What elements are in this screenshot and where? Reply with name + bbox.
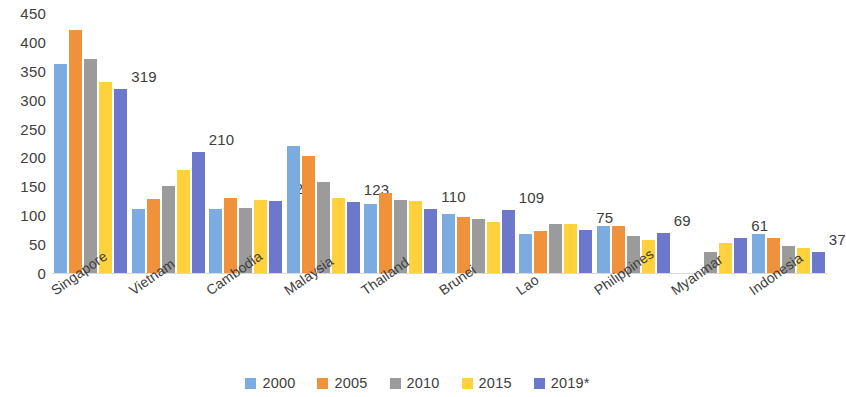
legend-label: 2015 xyxy=(479,376,512,391)
bar-group xyxy=(54,13,127,273)
legend-item[interactable]: 2019* xyxy=(534,376,590,391)
bar-slot xyxy=(719,13,732,273)
legend-item[interactable]: 2010 xyxy=(390,376,440,391)
bar-slot xyxy=(254,13,267,273)
y-axis-tick: 150 xyxy=(0,179,46,194)
bar-slot xyxy=(317,13,330,273)
bar-slot xyxy=(812,13,825,273)
legend-swatch-icon xyxy=(245,378,256,389)
bar xyxy=(752,234,765,273)
bar-slot xyxy=(114,13,127,273)
bar-slot xyxy=(767,13,780,273)
y-axis-tick: 400 xyxy=(0,34,46,49)
bar xyxy=(487,222,500,273)
legend-label: 2000 xyxy=(262,376,295,391)
bar-slot xyxy=(472,13,485,273)
bar xyxy=(114,89,127,273)
bar-slot xyxy=(332,13,345,273)
bar-group xyxy=(752,13,825,273)
bar xyxy=(424,209,437,273)
bar-group xyxy=(209,13,282,273)
legend-swatch-icon xyxy=(462,378,473,389)
bar-slot xyxy=(442,13,455,273)
bar xyxy=(579,230,592,273)
bar-slot xyxy=(162,13,175,273)
bar xyxy=(177,170,190,273)
bar-slot xyxy=(734,13,747,273)
bar-slot xyxy=(424,13,437,273)
legend-swatch-icon xyxy=(534,378,545,389)
bar xyxy=(409,201,422,273)
bar-slot xyxy=(627,13,640,273)
legend-swatch-icon xyxy=(317,378,328,389)
bar xyxy=(442,214,455,274)
bar-slot xyxy=(612,13,625,273)
bar xyxy=(132,209,145,273)
bar-slot xyxy=(642,13,655,273)
bar-slot xyxy=(674,13,687,273)
bar-group xyxy=(674,13,747,273)
bar xyxy=(69,30,82,273)
bar-slot xyxy=(99,13,112,273)
bar xyxy=(287,146,300,273)
bar-slot xyxy=(704,13,717,273)
bar xyxy=(302,156,315,273)
bar xyxy=(534,231,547,273)
bar xyxy=(192,152,205,273)
bar-slot xyxy=(597,13,610,273)
bar xyxy=(657,233,670,273)
bar-slot xyxy=(287,13,300,273)
bar-group xyxy=(519,13,592,273)
bar xyxy=(812,252,825,273)
plot-area: 31921012412311010975696137 xyxy=(52,13,827,273)
bar-slot xyxy=(192,13,205,273)
bar-group xyxy=(442,13,515,273)
bar-slot xyxy=(564,13,577,273)
bar-slot xyxy=(782,13,795,273)
bar xyxy=(54,64,67,273)
bar-group xyxy=(287,13,360,273)
bar-slot xyxy=(54,13,67,273)
bar-slot xyxy=(269,13,282,273)
x-axis-label: Lao xyxy=(513,271,542,298)
bar xyxy=(734,238,747,273)
bar xyxy=(364,204,377,273)
y-axis: 450400350300250200150100500 xyxy=(0,0,46,287)
bar-slot xyxy=(657,13,670,273)
y-axis-tick: 450 xyxy=(0,6,46,21)
bar-slot xyxy=(797,13,810,273)
legend-item[interactable]: 2005 xyxy=(317,376,367,391)
bar-slot xyxy=(224,13,237,273)
bar-slot xyxy=(519,13,532,273)
bar-slot xyxy=(409,13,422,273)
bar-slot xyxy=(69,13,82,273)
legend-label: 2010 xyxy=(407,376,440,391)
bar-slot xyxy=(177,13,190,273)
y-axis-tick: 300 xyxy=(0,92,46,107)
legend-item[interactable]: 2000 xyxy=(245,376,295,391)
bar-slot xyxy=(752,13,765,273)
y-axis-tick: 250 xyxy=(0,121,46,136)
bar-group xyxy=(364,13,437,273)
chart-legend: 20002005201020152019* xyxy=(0,376,835,391)
y-axis-tick: 200 xyxy=(0,150,46,165)
bar xyxy=(564,224,577,273)
bar-slot xyxy=(534,13,547,273)
bar-slot xyxy=(379,13,392,273)
bar-slot xyxy=(394,13,407,273)
y-axis-tick: 100 xyxy=(0,208,46,223)
bar-slot xyxy=(84,13,97,273)
bar xyxy=(597,226,610,273)
bar-group xyxy=(597,13,670,273)
bar-group xyxy=(132,13,205,273)
legend-item[interactable]: 2015 xyxy=(462,376,512,391)
bar-slot xyxy=(457,13,470,273)
legend-swatch-icon xyxy=(390,378,401,389)
bar-slot xyxy=(579,13,592,273)
bar xyxy=(472,219,485,273)
bar-slot xyxy=(502,13,515,273)
bar xyxy=(84,59,97,273)
bar-slot xyxy=(239,13,252,273)
bar xyxy=(502,210,515,273)
